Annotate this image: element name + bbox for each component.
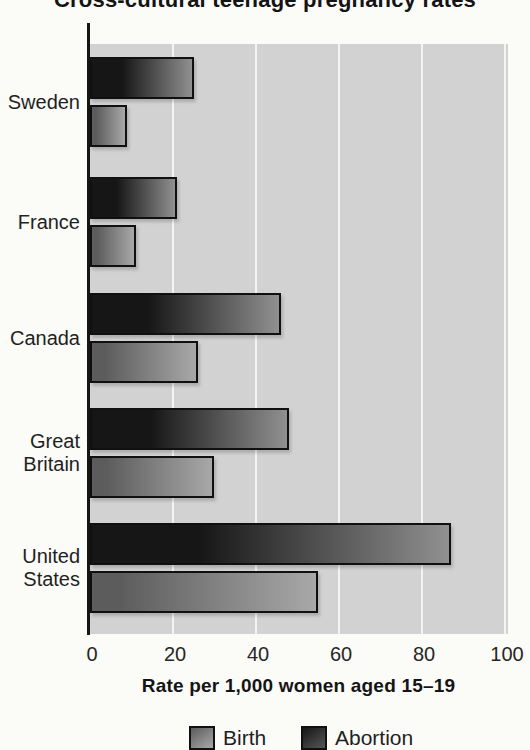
- bar-abortion-great-britain: [90, 408, 289, 450]
- x-axis-label: Rate per 1,000 women aged 15–19: [89, 675, 508, 697]
- x-tick-label-60: 60: [317, 643, 365, 666]
- x-tick-label-80: 80: [400, 643, 448, 666]
- chart-title: Cross-cultural teenage pregnancy rates: [0, 0, 530, 12]
- bar-birth-united-states: [90, 571, 318, 613]
- bar-abortion-canada: [90, 293, 281, 335]
- bar-abortion-sweden: [90, 57, 194, 99]
- legend-swatch-abortion: [301, 726, 327, 750]
- legend-label-birth: Birth: [223, 726, 266, 750]
- bar-birth-france: [90, 225, 136, 267]
- x-tick-label-40: 40: [234, 643, 282, 666]
- bar-abortion-united-states: [90, 523, 451, 565]
- category-label-france: France: [0, 211, 80, 234]
- x-tick-label-20: 20: [151, 643, 199, 666]
- bar-abortion-france: [90, 177, 177, 219]
- x-tick-label-0: 0: [68, 643, 116, 666]
- category-label-canada: Canada: [0, 327, 80, 350]
- gridline-100: [504, 44, 506, 634]
- legend-swatch-birth: [189, 726, 215, 750]
- chart-figure: Cross-cultural teenage pregnancy rates S…: [0, 0, 530, 750]
- bar-birth-sweden: [90, 105, 127, 147]
- bar-birth-great-britain: [90, 456, 214, 498]
- legend-label-abortion: Abortion: [335, 726, 413, 750]
- bar-birth-canada: [90, 341, 198, 383]
- category-label-united-states: United States: [0, 545, 80, 591]
- category-label-great-britain: Great Britain: [0, 430, 80, 476]
- x-tick-label-100: 100: [483, 643, 530, 666]
- category-label-sweden: Sweden: [0, 91, 80, 114]
